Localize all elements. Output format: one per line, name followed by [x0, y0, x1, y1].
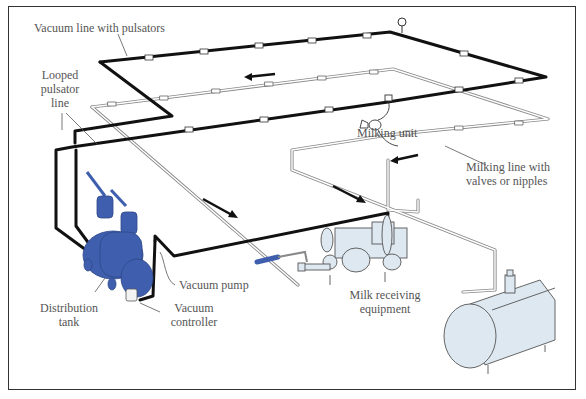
label-vacuum-line: Vacuum line with pulsators [34, 21, 165, 35]
label-controller-1: Vacuum [164, 301, 224, 315]
bulk-tank-icon [444, 270, 555, 374]
label-vacuum-pump: Vacuum pump [179, 278, 249, 292]
label-receiving-1: Milk receiving [340, 288, 430, 302]
label-milking-line: Milking line with valves or nipples [466, 160, 550, 188]
label-distribution-tank: Distribution tank [38, 301, 100, 329]
milk-receiving-equipment-icon [298, 215, 407, 285]
label-looped-line-3: line [40, 96, 80, 110]
label-receiving-2: equipment [340, 302, 430, 316]
milking-system-diagram [0, 0, 586, 399]
label-distribution-1: Distribution [38, 301, 100, 315]
milk-inlet-handle-icon [257, 257, 278, 262]
pulsators [145, 33, 523, 132]
vacuum-controller-icon [126, 289, 137, 301]
label-milking-line-1: Milking line with [466, 160, 550, 174]
label-looped-pulsator-line: Looped pulsator line [40, 68, 80, 110]
label-milking-line-2: valves or nipples [466, 174, 550, 188]
label-vacuum-controller: Vacuum controller [164, 301, 224, 329]
label-looped-line-2: pulsator [40, 82, 80, 96]
vacuum-gauge-icon [398, 18, 406, 33]
label-distribution-2: tank [38, 315, 100, 329]
label-milking-unit: Milking unit [357, 126, 417, 140]
label-controller-2: controller [164, 315, 224, 329]
label-looped-line-1: Looped [40, 68, 80, 82]
distribution-tank-icon [83, 172, 153, 297]
label-milk-receiving-equipment: Milk receiving equipment [340, 288, 430, 316]
